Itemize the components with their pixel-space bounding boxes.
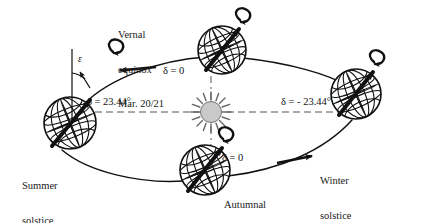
label-summer-solstice: Summer solstice Jun. 20/21 <box>22 157 66 223</box>
spin-arrow-winter <box>370 50 384 64</box>
declination-summer: δ = 23.44° <box>87 96 131 108</box>
label-autumnal-equinox: Autumnal equinox Sep. 22/23 <box>224 176 269 223</box>
declination-vernal: δ = 0 <box>163 65 184 77</box>
label-vernal-line-2: equinox <box>118 64 164 76</box>
declination-autumnal: δ = 0 <box>222 152 243 164</box>
label-winter-solstice: Winter solstice Dec. 21/22 <box>320 152 366 223</box>
label-vernal-equinox: Vernal equinox Mar. 20/21 <box>118 6 164 133</box>
orbit-direction-arrow-bottom <box>277 156 312 163</box>
label-summer-line-1: Summer <box>22 180 66 192</box>
label-winter-line-2: solstice <box>320 210 366 222</box>
spin-arrow-vernal <box>236 8 250 22</box>
sun-icon <box>191 92 231 132</box>
declination-winter: δ = - 23.44° <box>281 96 331 108</box>
label-vernal-line-1: Vernal <box>118 29 164 41</box>
globe-winter-solstice <box>322 59 390 129</box>
label-winter-line-1: Winter <box>320 175 366 187</box>
seasons-diagram: Vernal equinox Mar. 20/21 δ = 0 ε δ = 23… <box>0 0 421 223</box>
spin-arrow-autumnal <box>219 127 233 141</box>
label-summer-line-2: solstice <box>22 215 66 224</box>
obliquity-symbol: ε <box>78 53 82 64</box>
label-autumnal-line-1: Autumnal <box>224 199 269 211</box>
globe-vernal-equinox <box>189 16 254 83</box>
